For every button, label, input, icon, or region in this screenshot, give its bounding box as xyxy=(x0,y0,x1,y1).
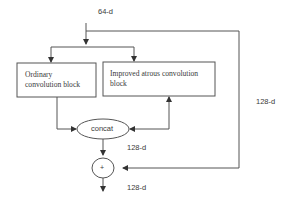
concat-label: concat xyxy=(91,125,113,133)
ordinary-to-concat-arrow xyxy=(57,97,76,129)
output-dim-label: 128-d xyxy=(127,184,146,192)
diagram-connectors xyxy=(0,0,288,202)
add-symbol: + xyxy=(100,164,104,171)
after-concat-dim-label: 128-d xyxy=(127,144,146,152)
atrous-block-line2: block xyxy=(110,79,198,89)
ordinary-block-line2: convolution block xyxy=(25,80,80,90)
skip-dim-label: 128-d xyxy=(256,98,275,106)
atrous-block-line1: Improved atrous convolution xyxy=(110,69,198,79)
ordinary-block: Ordinary convolution block xyxy=(25,70,80,90)
diagram-canvas: 64-d Ordinary convolution block Improved… xyxy=(0,0,288,202)
atrous-block: Improved atrous convolution block xyxy=(110,69,198,89)
input-dim-label: 64-d xyxy=(98,8,113,16)
ordinary-block-line1: Ordinary xyxy=(25,70,80,80)
